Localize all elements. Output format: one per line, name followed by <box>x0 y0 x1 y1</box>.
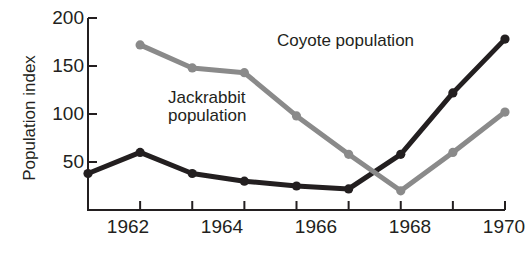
data-point <box>292 111 301 120</box>
data-point <box>396 150 405 159</box>
data-point <box>500 35 509 44</box>
data-point <box>292 181 301 190</box>
data-point <box>448 88 457 97</box>
data-series-layer <box>83 35 509 196</box>
data-point <box>188 63 197 72</box>
population-index-line-chart: Population index 200 150 100 50 1962 196… <box>0 0 530 259</box>
data-point <box>240 177 249 186</box>
data-point <box>396 186 405 195</box>
data-point <box>136 40 145 49</box>
data-point <box>83 169 92 178</box>
data-point <box>188 169 197 178</box>
data-point <box>344 150 353 159</box>
data-point <box>500 107 509 116</box>
data-point <box>240 68 249 77</box>
plot-area <box>0 0 530 259</box>
data-point <box>136 148 145 157</box>
data-point <box>448 148 457 157</box>
data-point <box>344 184 353 193</box>
